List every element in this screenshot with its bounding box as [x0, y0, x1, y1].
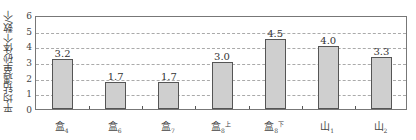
y-tick-label: 3 — [22, 58, 32, 68]
x-category-label: 盒8下 — [254, 118, 294, 134]
x-category-label: 盒7 — [148, 118, 188, 134]
x-category-label: 山2 — [360, 118, 400, 134]
gridline — [36, 33, 406, 34]
y-tick-label: 2 — [22, 74, 32, 84]
y-tick-label: 6 — [22, 11, 32, 21]
bar — [105, 82, 126, 109]
bar-chart: 平均钻遇单砂体个数/个 0123456 3.21.71.73.04.54.03.… — [0, 0, 416, 140]
x-tick — [355, 106, 356, 109]
bar-value-label: 1.7 — [101, 72, 131, 82]
bar-value-label: 3.3 — [366, 47, 396, 57]
y-tick-label: 4 — [22, 42, 32, 52]
x-category-label: 盒4 — [42, 118, 82, 134]
plot-area: 3.21.71.73.04.54.03.3 — [35, 16, 407, 110]
bar — [52, 59, 73, 109]
y-tick-label: 5 — [22, 27, 32, 37]
y-axis-label: 平均钻遇单砂体个数/个 — [2, 8, 16, 114]
x-category-label: 盒8上 — [201, 118, 241, 134]
bar — [158, 82, 179, 109]
bar-value-label: 4.0 — [313, 36, 343, 46]
bar — [265, 39, 286, 110]
bar-value-label: 1.7 — [154, 72, 184, 82]
x-category-label: 山1 — [307, 118, 347, 134]
bar-value-label: 3.2 — [48, 49, 78, 59]
bar — [371, 57, 392, 109]
x-tick — [302, 106, 303, 109]
bar — [212, 62, 233, 109]
bar-value-label: 4.5 — [260, 29, 290, 39]
gridline — [36, 48, 406, 49]
x-tick — [195, 106, 196, 109]
x-category-label: 盒6 — [95, 118, 135, 134]
bar-value-label: 3.0 — [207, 52, 237, 62]
bar — [318, 46, 339, 109]
x-tick — [89, 106, 90, 109]
y-tick-label: 1 — [22, 89, 32, 99]
x-tick — [142, 106, 143, 109]
y-tick-label: 0 — [22, 105, 32, 115]
x-tick — [249, 106, 250, 109]
